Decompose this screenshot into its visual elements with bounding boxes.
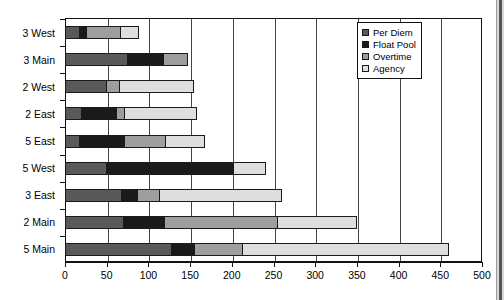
bar-segment[interactable] xyxy=(65,80,107,93)
bar-segment[interactable] xyxy=(194,243,243,256)
bar-segment[interactable] xyxy=(277,216,357,229)
bar-segment[interactable] xyxy=(164,216,278,229)
x-axis-tick xyxy=(357,262,358,267)
bar-row[interactable] xyxy=(65,189,281,202)
legend-label: Float Pool xyxy=(373,39,416,50)
bar-segment[interactable] xyxy=(65,53,128,66)
bar-segment[interactable] xyxy=(79,135,125,148)
x-axis-tick xyxy=(274,262,275,267)
x-axis-tick xyxy=(482,262,483,267)
y-axis-label-5-west: 5 West xyxy=(23,162,55,174)
y-axis-label-3-main: 3 Main xyxy=(23,54,55,66)
y-axis-label-2-main: 2 Main xyxy=(23,216,55,228)
x-axis-tick xyxy=(232,262,233,267)
bar-row[interactable] xyxy=(65,243,448,256)
legend-item-agency[interactable]: Agency xyxy=(362,63,416,74)
bar-segment[interactable] xyxy=(124,107,197,120)
bar-row[interactable] xyxy=(65,26,138,39)
legend-label: Per Diem xyxy=(373,27,413,38)
bar-row[interactable] xyxy=(65,107,196,120)
bar-segment[interactable] xyxy=(81,107,118,120)
bar-segment[interactable] xyxy=(121,189,139,202)
legend-label: Overtime xyxy=(373,51,412,62)
bar-segment[interactable] xyxy=(124,135,167,148)
x-axis-label-350: 350 xyxy=(348,269,366,281)
x-axis-tick xyxy=(65,262,66,267)
legend-item-overtime[interactable]: Overtime xyxy=(362,51,416,62)
legend-swatch-icon xyxy=(362,41,369,48)
bar-segment[interactable] xyxy=(137,189,160,202)
bar-segment[interactable] xyxy=(65,107,82,120)
y-axis-label-5-main: 5 Main xyxy=(23,243,55,255)
y-axis-label-3-east: 3 East xyxy=(25,189,55,201)
legend-item-float-pool[interactable]: Float Pool xyxy=(362,39,416,50)
bar-row[interactable] xyxy=(65,80,193,93)
y-axis-labels: 3 West3 Main2 West2 East5 East5 West3 Ea… xyxy=(0,18,62,262)
x-axis-label-0: 0 xyxy=(62,269,68,281)
bar-segment[interactable] xyxy=(65,135,80,148)
x-axis-tick xyxy=(440,262,441,267)
legend-item-per-diem[interactable]: Per Diem xyxy=(362,27,416,38)
bar-segment[interactable] xyxy=(65,216,124,229)
chart-legend: Per DiemFloat PoolOvertimeAgency xyxy=(357,22,422,79)
right-edge-artifact-dark xyxy=(499,0,502,300)
y-axis-label-2-east: 2 East xyxy=(25,108,55,120)
x-axis-tick xyxy=(190,262,191,267)
x-axis-label-200: 200 xyxy=(223,269,241,281)
bar-segment[interactable] xyxy=(65,26,80,39)
x-axis-label-100: 100 xyxy=(140,269,158,281)
x-axis-label-500: 500 xyxy=(473,269,491,281)
bar-row[interactable] xyxy=(65,162,265,175)
x-axis-label-450: 450 xyxy=(432,269,450,281)
bar-segment[interactable] xyxy=(171,243,195,256)
stacked-bar-chart: 3 West3 Main2 West2 East5 East5 West3 Ea… xyxy=(0,0,504,300)
x-axis-tick xyxy=(315,262,316,267)
bar-segment[interactable] xyxy=(159,189,282,202)
y-axis-label-2-west: 2 West xyxy=(23,81,55,93)
y-axis-label-5-east: 5 East xyxy=(25,135,55,147)
x-axis-label-300: 300 xyxy=(306,269,324,281)
bar-row[interactable] xyxy=(65,216,356,229)
bar-segment[interactable] xyxy=(65,243,172,256)
bar-row[interactable] xyxy=(65,53,187,66)
bar-segment[interactable] xyxy=(163,53,188,66)
bar-segment[interactable] xyxy=(127,53,165,66)
bar-segment[interactable] xyxy=(123,216,165,229)
bar-segment[interactable] xyxy=(165,135,205,148)
x-axis-tick xyxy=(148,262,149,267)
bar-segment[interactable] xyxy=(242,243,449,256)
legend-label: Agency xyxy=(373,63,405,74)
legend-swatch-icon xyxy=(362,65,369,72)
x-axis-label-150: 150 xyxy=(181,269,199,281)
x-axis-tick xyxy=(399,262,400,267)
legend-swatch-icon xyxy=(362,29,369,36)
bar-segment[interactable] xyxy=(65,162,107,175)
bar-segment[interactable] xyxy=(120,26,138,39)
bar-segment[interactable] xyxy=(106,162,234,175)
y-axis-label-3-west: 3 West xyxy=(23,27,55,39)
bar-segment[interactable] xyxy=(106,80,120,93)
x-axis-label-400: 400 xyxy=(390,269,408,281)
x-axis-label-250: 250 xyxy=(265,269,283,281)
legend-swatch-icon xyxy=(362,53,369,60)
bar-segment[interactable] xyxy=(86,26,121,39)
bar-segment[interactable] xyxy=(233,162,266,175)
bar-segment[interactable] xyxy=(65,189,122,202)
bar-row[interactable] xyxy=(65,135,204,148)
x-axis-label-50: 50 xyxy=(101,269,113,281)
x-axis-tick xyxy=(107,262,108,267)
bar-segment[interactable] xyxy=(119,80,194,93)
